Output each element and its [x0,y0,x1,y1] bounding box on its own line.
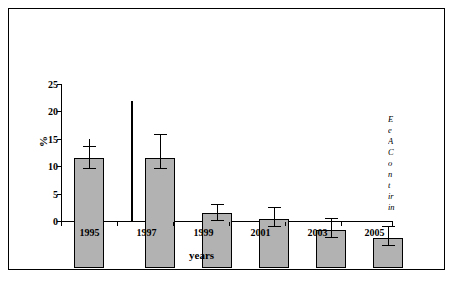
side-caption-line-0: E [388,114,444,125]
x-axis-label: years [189,249,214,261]
bar-group-2003 [304,131,359,268]
x-tick-label-1997: 1997 [119,227,174,238]
bar-group-1999 [190,131,245,268]
side-caption-line-2: A [388,136,444,147]
y-tick-mark-4 [57,111,61,112]
error-bar-cap-upper-2001 [268,207,281,208]
y-tick-label-0: 0 [32,218,58,226]
error-bar-cap-lower-1999 [211,220,224,221]
error-bar-line-1999 [217,205,218,221]
side-caption-line-1: e [388,125,444,136]
x-tick-label-1999: 1999 [176,227,231,238]
error-bar-cap-upper-1999 [211,204,224,205]
error-bar-line-1995 [89,139,90,169]
bar-group-2001 [247,131,302,268]
error-bar-cap-lower-1997 [154,168,167,169]
x-tick-label-2005: 2005 [347,227,402,238]
x-tick-mark-5 [341,222,342,226]
side-caption-line-5: n [388,169,444,180]
y-tick-label-4: 20 [32,108,58,116]
y-tick-label-2: 10 [32,163,58,171]
figure-page: 0 5 10 15 20 25 % [0,0,461,286]
side-caption-line-7: ir [388,191,444,202]
x-tick-mark-2 [173,222,174,226]
y-tick-mark-5 [57,84,61,85]
bar-1995 [74,158,104,268]
y-tick-label-1: 5 [32,191,58,199]
x-tick-mark-4 [285,222,286,226]
figure-frame: 0 5 10 15 20 25 % [8,8,445,270]
x-tick-mark-0 [61,222,62,226]
y-tick-mark-2 [57,166,61,167]
error-bar-cap-lower-2005 [382,245,395,246]
x-tick-label-2001: 2001 [233,227,288,238]
error-bar-line-1997 [160,134,161,170]
error-bar-cap-upper-1997 [154,134,167,135]
x-tick-label-2003: 2003 [290,227,345,238]
x-tick-mark-3 [229,222,230,226]
y-tick-mark-1 [57,194,61,195]
y-tick-label-5: 25 [32,81,58,89]
side-caption-line-4: o [388,158,444,169]
bar-1997 [145,158,175,268]
error-bar-cap-upper-1995 [83,146,96,147]
x-tick-label-1995: 1995 [62,227,117,238]
x-tick-mark-1 [117,222,118,226]
side-caption-line-8: in [388,202,444,213]
bar-group-1997 [133,131,188,268]
error-bar-cap-upper-2003 [325,218,338,219]
error-bar-cap-lower-1995 [83,168,96,169]
bar-group-1995 [62,131,117,268]
side-caption-line-3: C [388,147,444,158]
clipped-side-caption: E e A C o n t ir in [388,114,444,224]
y-tick-mark-3 [57,139,61,140]
y-axis-label: % [37,136,49,147]
side-caption-line-6: t [388,180,444,191]
error-bar-line-2001 [274,208,275,227]
